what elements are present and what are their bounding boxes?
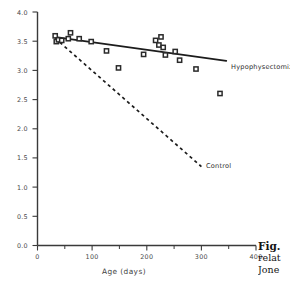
y-axis-ticks xyxy=(33,12,38,246)
data-point xyxy=(60,38,64,42)
x-axis-ticks xyxy=(38,246,257,251)
x-ticklabel: 100 xyxy=(86,253,99,261)
data-point xyxy=(154,38,158,42)
y-ticklabel: 4.0 xyxy=(17,9,28,17)
y-ticklabel: 2.0 xyxy=(17,125,28,133)
data-point xyxy=(142,52,146,56)
y-ticklabel: 2.5 xyxy=(17,96,28,104)
y-ticklabel: 3.5 xyxy=(17,38,28,46)
y-ticklabel: 3.0 xyxy=(17,67,28,75)
caption-line-2: relat xyxy=(258,252,290,264)
data-point xyxy=(173,49,177,53)
caption-line-3: Jone xyxy=(258,264,290,276)
y-ticklabel: 1.0 xyxy=(17,184,28,192)
data-point xyxy=(218,91,222,95)
y-ticklabel: 1.5 xyxy=(17,154,28,162)
y-ticklabel: 0.5 xyxy=(17,213,28,221)
data-point xyxy=(104,49,108,53)
figure-container: 0.0 0.5 1.0 1.5 2.0 2.5 3.0 3.5 4.0 0 10… xyxy=(0,0,290,282)
data-point xyxy=(116,66,120,70)
series-label-hypophysectomized: Hypophysectomized xyxy=(231,63,290,71)
data-point xyxy=(159,35,163,39)
x-ticklabel: 200 xyxy=(140,253,153,261)
data-point xyxy=(77,37,81,41)
series-label-control: Control xyxy=(206,162,231,170)
data-point xyxy=(89,40,93,44)
x-axis-ticklabels: 0 100 200 300 400 xyxy=(35,253,262,261)
x-ticklabel: 0 xyxy=(35,253,39,261)
data-point xyxy=(66,37,70,41)
figure-caption: Fig. relat Jone xyxy=(258,240,290,275)
data-point-markers xyxy=(53,31,222,96)
y-axis-ticklabels: 0.0 0.5 1.0 1.5 2.0 2.5 3.0 3.5 4.0 xyxy=(17,9,28,250)
data-point xyxy=(68,31,72,35)
x-axis-title: Age (days) xyxy=(102,267,146,276)
caption-fig-label: Fig. xyxy=(258,240,290,252)
data-point xyxy=(194,67,198,71)
y-ticklabel: 0.0 xyxy=(17,242,28,250)
chart-svg: 0.0 0.5 1.0 1.5 2.0 2.5 3.0 3.5 4.0 0 10… xyxy=(0,0,290,282)
axes-group xyxy=(38,12,257,246)
x-ticklabel: 300 xyxy=(195,253,208,261)
data-point xyxy=(178,58,182,62)
data-point xyxy=(163,53,167,57)
data-point xyxy=(161,45,165,49)
